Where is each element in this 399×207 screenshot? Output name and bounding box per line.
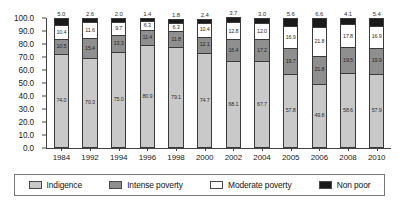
bar-group[interactable]: 3.712.816.468.1 bbox=[226, 18, 242, 148]
x-axis-line bbox=[46, 148, 391, 149]
bar-segment-intense[interactable]: 13.3 bbox=[112, 36, 126, 54]
bar-group[interactable]: 2.611.615.470.3 bbox=[82, 18, 98, 148]
bar-segment-moderate[interactable]: 12.0 bbox=[255, 24, 269, 40]
bar-segment-moderate[interactable]: 21.8 bbox=[313, 28, 327, 56]
bar-segment-indigence[interactable]: 57.8 bbox=[284, 75, 298, 147]
y-tick-label: 80.0 bbox=[18, 40, 34, 49]
bar-stack[interactable]: 1.86.311.879.1 bbox=[168, 19, 184, 148]
bar-stack[interactable]: 3.712.816.468.1 bbox=[226, 17, 242, 148]
bar-segment-value: 57.9 bbox=[372, 108, 382, 113]
bar-segment-value: 74.7 bbox=[200, 98, 210, 103]
bar-segment-indigence[interactable]: 75.0 bbox=[112, 53, 126, 147]
bar-segment-moderate[interactable]: 6.3 bbox=[141, 22, 155, 31]
bar-group[interactable]: 5.416.919.957.9 bbox=[369, 18, 385, 148]
bar-segment-intense[interactable]: 15.4 bbox=[83, 39, 97, 59]
bar-stack[interactable]: 2.09.713.375.0 bbox=[111, 18, 127, 148]
bar-segment-value: 57.8 bbox=[286, 108, 296, 113]
bar-top-value: 2.0 bbox=[115, 11, 123, 17]
bar-top-value: 4.1 bbox=[344, 11, 352, 17]
bar-top-value: 2.4 bbox=[201, 12, 209, 18]
bar-segment-indigence[interactable]: 70.3 bbox=[83, 59, 97, 147]
bar-stack[interactable]: 3.012.017.267.7 bbox=[254, 18, 270, 148]
bar-segment-moderate[interactable]: 11.6 bbox=[83, 23, 97, 39]
bar-group[interactable]: 4.117.819.558.6 bbox=[340, 18, 356, 148]
legend-item[interactable]: Non poor bbox=[319, 180, 371, 190]
bar-segment-value: 10.5 bbox=[56, 44, 66, 49]
bar-segment-intense[interactable]: 11.4 bbox=[141, 31, 155, 46]
bar-group[interactable]: 2.410.412.174.7 bbox=[197, 18, 213, 148]
bar-segment-moderate[interactable]: 16.9 bbox=[284, 27, 298, 49]
x-tick-mark bbox=[348, 148, 349, 151]
bar-segment-intense[interactable]: 11.8 bbox=[169, 32, 183, 48]
bar-segment-nonpoor[interactable]: 5.4 bbox=[370, 19, 384, 27]
legend-item[interactable]: Indigence bbox=[29, 180, 82, 190]
bar-group[interactable]: 2.09.713.375.0 bbox=[111, 18, 127, 148]
bar-segment-value: 13.3 bbox=[114, 41, 124, 46]
bar-segment-value: 49.8 bbox=[314, 113, 324, 118]
bar-segment-intense[interactable]: 16.4 bbox=[227, 40, 241, 62]
bar-segment-indigence[interactable]: 68.1 bbox=[227, 62, 241, 147]
bar-group[interactable]: 5.010.410.574.0 bbox=[54, 18, 70, 148]
bar-segment-indigence[interactable]: 80.9 bbox=[141, 46, 155, 147]
x-tick-mark bbox=[90, 148, 91, 151]
bar-stack[interactable]: 5.616.919.757.8 bbox=[283, 18, 299, 148]
bar-group[interactable]: 3.012.017.267.7 bbox=[254, 18, 270, 148]
y-tick-mark bbox=[42, 83, 46, 84]
bar-segment-moderate[interactable]: 12.8 bbox=[227, 23, 241, 40]
x-tick-label: 1996 bbox=[139, 153, 156, 162]
x-tick-label: 2004 bbox=[253, 153, 270, 162]
bar-segment-indigence[interactable]: 74.0 bbox=[55, 55, 69, 147]
bar-top-value: 5.4 bbox=[373, 11, 381, 17]
bar-segment-moderate[interactable]: 9.7 bbox=[112, 23, 126, 36]
bar-segment-intense[interactable]: 10.5 bbox=[55, 40, 69, 54]
bar-stack[interactable]: 5.416.919.957.9 bbox=[369, 18, 385, 148]
bar-group[interactable]: 6.621.821.849.8 bbox=[312, 18, 328, 148]
bar-segment-value: 16.9 bbox=[372, 34, 382, 39]
bar-segment-indigence[interactable]: 49.8 bbox=[313, 85, 327, 147]
bar-stack[interactable]: 2.410.412.174.7 bbox=[197, 19, 213, 148]
bar-segment-value: 17.2 bbox=[257, 48, 267, 53]
bar-stack[interactable]: 2.611.615.470.3 bbox=[82, 18, 98, 148]
bar-segment-moderate[interactable]: 10.4 bbox=[198, 24, 212, 38]
bar-segment-indigence[interactable]: 58.6 bbox=[341, 74, 355, 147]
y-tick-label: 30.0 bbox=[18, 105, 34, 114]
legend-item[interactable]: Intense poverty bbox=[109, 180, 183, 190]
bar-segment-moderate[interactable]: 6.3 bbox=[169, 24, 183, 33]
bar-segment-value: 10.4 bbox=[200, 27, 210, 32]
bar-segment-intense[interactable]: 17.2 bbox=[255, 40, 269, 63]
bar-segment-indigence[interactable]: 57.9 bbox=[370, 75, 384, 147]
bar-segment-indigence[interactable]: 74.7 bbox=[198, 54, 212, 147]
bar-segment-intense[interactable]: 19.7 bbox=[284, 49, 298, 75]
bar-top-value: 5.6 bbox=[287, 11, 295, 17]
y-tick-mark bbox=[42, 70, 46, 71]
bar-stack[interactable]: 5.010.410.574.0 bbox=[54, 18, 70, 148]
bar-segment-moderate[interactable]: 16.9 bbox=[370, 27, 384, 49]
bar-segment-moderate[interactable]: 17.8 bbox=[341, 25, 355, 48]
bars-layer: 5.010.410.574.02.611.615.470.32.09.713.3… bbox=[47, 18, 391, 148]
y-tick-label: 70.0 bbox=[18, 53, 34, 62]
x-tick-mark bbox=[61, 148, 62, 151]
bar-segment-intense[interactable]: 19.9 bbox=[370, 49, 384, 75]
bar-group[interactable]: 5.616.919.757.8 bbox=[283, 18, 299, 148]
bar-stack[interactable]: 1.46.311.480.9 bbox=[140, 18, 156, 148]
bar-group[interactable]: 1.46.311.480.9 bbox=[140, 18, 156, 148]
bar-segment-moderate[interactable]: 10.4 bbox=[55, 26, 69, 40]
bar-segment-intense[interactable]: 21.8 bbox=[313, 57, 327, 85]
bar-segment-nonpoor[interactable]: 5.0 bbox=[55, 19, 69, 26]
x-tick-label: 2006 bbox=[311, 153, 328, 162]
bar-group[interactable]: 1.86.311.879.1 bbox=[168, 18, 184, 148]
bar-segment-value: 58.6 bbox=[343, 108, 353, 113]
bar-segment-intense[interactable]: 19.5 bbox=[341, 48, 355, 73]
y-tick-label: 20.0 bbox=[18, 118, 34, 127]
bar-segment-value: 68.1 bbox=[228, 102, 238, 107]
bar-segment-nonpoor[interactable]: 5.6 bbox=[284, 19, 298, 27]
y-tick-mark bbox=[42, 135, 46, 136]
legend-label: Moderate poverty bbox=[228, 180, 292, 190]
bar-segment-intense[interactable]: 12.1 bbox=[198, 38, 212, 54]
bar-segment-indigence[interactable]: 67.7 bbox=[255, 62, 269, 147]
legend-item[interactable]: Moderate poverty bbox=[210, 180, 292, 190]
bar-segment-indigence[interactable]: 79.1 bbox=[169, 48, 183, 147]
bar-segment-nonpoor[interactable]: 6.6 bbox=[313, 19, 327, 28]
bar-stack[interactable]: 6.621.821.849.8 bbox=[312, 18, 328, 148]
bar-stack[interactable]: 4.117.819.558.6 bbox=[340, 18, 356, 148]
